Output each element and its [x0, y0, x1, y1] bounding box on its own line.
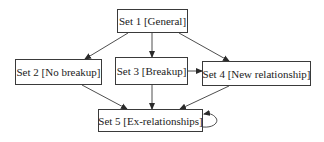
edge-set5-self-loop — [203, 114, 217, 127]
edge-set2-set5 — [82, 85, 127, 109]
node-set4-new-relationship: Set 4 [New relationship] — [202, 61, 311, 86]
state-diagram: Set 1 [General] Set 2 [No breakup] Set 3… — [0, 0, 324, 142]
node-set5-ex-relationships: Set 5 [Ex-relationships] — [98, 109, 203, 132]
node-label: Set 4 [New relationship] — [203, 68, 311, 80]
node-set1-general: Set 1 [General] — [117, 9, 188, 33]
node-label: Set 2 [No breakup] — [16, 66, 100, 78]
node-set3-breakup: Set 3 [Breakup] — [115, 57, 188, 85]
node-label: Set 1 [General] — [119, 15, 186, 27]
node-set2-no-breakup: Set 2 [No breakup] — [15, 59, 102, 85]
edge-set4-set5 — [180, 86, 229, 109]
node-label: Set 5 [Ex-relationships] — [98, 115, 202, 127]
edge-set1-set2 — [85, 33, 128, 59]
node-label: Set 3 [Breakup] — [117, 65, 187, 77]
